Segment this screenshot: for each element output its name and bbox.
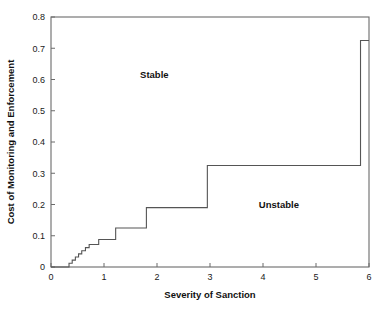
y-tick-label: 0.6 [32, 75, 45, 85]
stability-boundary-chart: 00.10.20.30.40.50.60.70.8 0123456 Severi… [0, 0, 377, 314]
y-tick-label: 0.4 [32, 137, 45, 147]
region-label-stable: Stable [140, 69, 169, 80]
y-axis-tick-labels: 00.10.20.30.40.50.60.70.8 [32, 12, 45, 272]
x-tick-label: 5 [313, 272, 318, 282]
x-tick-label: 3 [207, 272, 212, 282]
region-label-unstable: Unstable [259, 199, 299, 210]
x-tick-label: 2 [154, 272, 159, 282]
x-tick-label: 4 [260, 272, 265, 282]
y-tick-label: 0.5 [32, 106, 45, 116]
y-tick-label: 0.7 [32, 44, 45, 54]
x-tick-label: 0 [48, 272, 53, 282]
y-tick-label: 0 [40, 262, 45, 272]
y-tick-label: 0.1 [32, 231, 45, 241]
chart-figure: 00.10.20.30.40.50.60.70.8 0123456 Severi… [0, 0, 377, 314]
y-tick-label: 0.3 [32, 169, 45, 179]
x-axis-title: Severity of Sanction [164, 289, 256, 300]
x-tick-label: 6 [366, 272, 371, 282]
x-tick-label: 1 [101, 272, 106, 282]
y-axis-title: Cost of Monitoring and Enforcement [5, 59, 16, 224]
y-tick-label: 0.8 [32, 12, 45, 22]
y-tick-label: 0.2 [32, 200, 45, 210]
